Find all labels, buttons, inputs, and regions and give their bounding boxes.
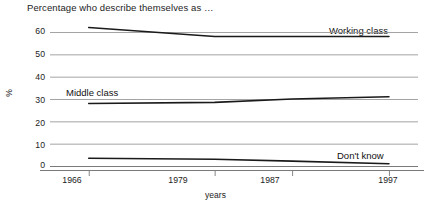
- data-lines: [89, 28, 389, 164]
- data-line-working-class: [89, 28, 389, 37]
- chart-container: Percentage who describe themselves as … …: [0, 0, 431, 214]
- data-line-don-t-know: [89, 158, 389, 164]
- plot-area: [0, 0, 431, 214]
- data-line-middle-class: [89, 97, 389, 104]
- x-axis-ticks: [89, 171, 389, 177]
